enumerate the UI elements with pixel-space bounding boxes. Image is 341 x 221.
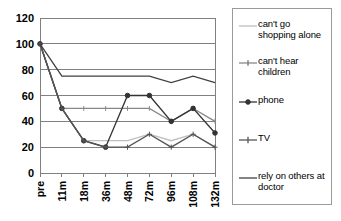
line-chart: 020406080100120 pre11m18m36m48m72m96m108…: [0, 0, 341, 221]
axis-tickmarks: [40, 173, 215, 177]
legend-marker-icon: [238, 134, 258, 146]
y-axis-tick-label: 60: [22, 90, 34, 102]
legend-item[interactable]: rely on others at doctor: [238, 171, 332, 192]
chart-canvas: 020406080100120 pre11m18m36m48m72m96m108…: [0, 0, 222, 221]
x-axis-tick-label: 48m: [122, 181, 134, 202]
legend-item[interactable]: TV: [238, 133, 332, 146]
x-axis-tick-label: 18m: [78, 181, 90, 202]
data-point-marker: [213, 131, 218, 136]
legend-marker-icon: [238, 20, 258, 32]
y-axis-tick-label: 40: [22, 115, 34, 127]
y-axis-tick-label: 80: [22, 64, 34, 76]
x-axis-tick-label: 96m: [165, 181, 177, 202]
x-axis-tick-label: 72m: [143, 181, 155, 202]
legend: can't go shopping alonecan't hear childr…: [232, 8, 332, 205]
data-point-marker: [147, 93, 152, 98]
x-axis-tick-label: 36m: [100, 181, 112, 202]
y-axis-tick-label: 100: [16, 38, 34, 50]
plot-area: 020406080100120 pre11m18m36m48m72m96m108…: [0, 0, 222, 221]
x-axis-tick-label: pre: [34, 181, 46, 198]
data-point-marker: [169, 119, 174, 124]
legend-item-label: rely on others at doctor: [258, 171, 324, 192]
series-rely-on-others-at-doctor: [40, 44, 215, 83]
x-axis-labels: pre11m18m36m48m72m96m108m132m: [34, 181, 221, 208]
legend-item[interactable]: can't hear children: [238, 56, 332, 77]
legend-item[interactable]: can't go shopping alone: [238, 19, 332, 40]
legend-item-label: TV: [258, 133, 270, 144]
legend-item-label: phone: [258, 95, 284, 106]
y-axis-tick-label: 20: [22, 141, 34, 153]
legend-item[interactable]: phone: [238, 95, 332, 108]
legend-item-label: can't hear children: [258, 56, 298, 77]
legend-marker-icon: [238, 172, 258, 184]
y-axis-tick-label: 120: [16, 12, 34, 24]
legend-item-label: can't go shopping alone: [258, 19, 321, 40]
data-point-marker: [125, 93, 130, 98]
series-line: [40, 44, 215, 83]
y-axis-labels: 020406080100120: [16, 12, 34, 179]
x-axis-tick-label: 11m: [56, 181, 68, 201]
legend-marker-icon: [238, 57, 258, 69]
x-axis-tick-label: 132m: [209, 181, 221, 208]
x-axis-tick-label: 108m: [187, 181, 199, 208]
y-axis-tick-label: 0: [28, 167, 34, 179]
legend-marker-icon: [238, 96, 258, 108]
data-point-marker: [191, 106, 196, 111]
